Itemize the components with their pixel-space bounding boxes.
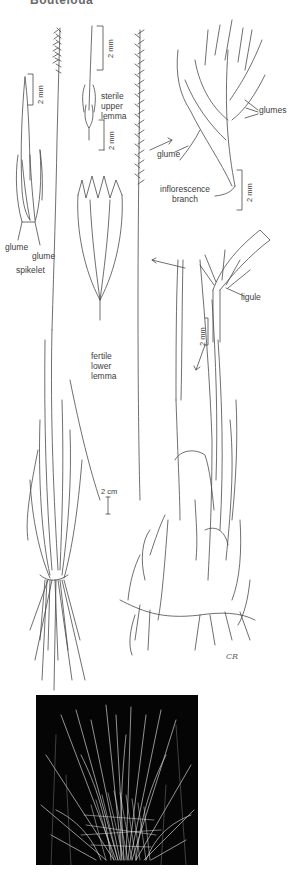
grass-clump-photo xyxy=(36,695,198,865)
habit-scale-bar xyxy=(106,497,110,514)
habit-photograph xyxy=(36,695,198,865)
fertile-lower-lemma-line-3: lemma xyxy=(91,372,117,382)
sterile-lemma-scale-label: 2 mm xyxy=(106,39,115,58)
right-habit-drawing xyxy=(120,260,255,655)
spikelet-label: spikelet xyxy=(16,266,45,276)
inflorescence-branch-line-2: branch xyxy=(172,195,198,205)
sterile-upper-lemma-line-3: lemma xyxy=(101,112,127,122)
artist-signature: CR xyxy=(226,652,238,661)
glume-label-left-2: glume xyxy=(32,252,55,262)
inflorescence-branch-drawing xyxy=(150,20,265,210)
inflorescence-branch-scale-label: 2 mm xyxy=(245,183,254,202)
middle-inflorescence xyxy=(135,30,144,500)
glumes-label: glumes xyxy=(259,106,286,116)
spikelet-scale-label: 2 mm xyxy=(36,85,45,104)
glume-label-right: glume xyxy=(157,150,180,160)
glume-label-left-1: glume xyxy=(5,243,28,253)
ligule-scale-label: 2 mm xyxy=(198,327,207,346)
left-inflorescence xyxy=(52,28,61,330)
botanical-plate: Bouteloua xyxy=(0,0,288,881)
fertile-lower-lemma-drawing xyxy=(78,120,123,320)
habit-scale-label: 2 cm xyxy=(101,487,117,496)
fertile-lemma-scale-label: 2 mm xyxy=(107,131,116,150)
ligule-label: ligule xyxy=(241,293,261,303)
left-habit-drawing xyxy=(27,330,100,690)
sterile-upper-lemma-drawing xyxy=(83,26,103,140)
